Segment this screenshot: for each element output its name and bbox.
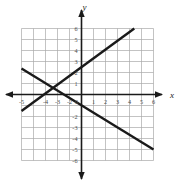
x-axis-right-arrow [155, 91, 163, 97]
xtick-label: -2 [67, 98, 72, 105]
ytick-label: -4 [72, 135, 77, 142]
graph-canvas: -5 -4 -3 -2 1 2 3 4 5 6 6 5 4 3 2 1 -2 -… [0, 0, 186, 187]
data-line-descending [22, 69, 154, 150]
ytick-label: -2 [72, 113, 77, 120]
xtick-label: 1 [92, 98, 95, 105]
coordinate-plane-graph: -5 -4 -3 -2 1 2 3 4 5 6 6 5 4 3 2 1 -2 -… [0, 0, 186, 187]
xtick-label: 2 [104, 98, 107, 105]
xtick-label: 3 [116, 98, 119, 105]
xtick-label: -3 [55, 98, 60, 105]
y-axis-bottom-arrow [78, 172, 84, 180]
xtick-label: 6 [152, 98, 155, 105]
xtick-label: -4 [43, 98, 48, 105]
x-axis-left-arrow [5, 91, 13, 97]
ytick-label: 1 [74, 80, 77, 87]
ytick-label: 4 [74, 47, 77, 54]
ytick-label: -3 [72, 124, 77, 131]
xtick-label: 5 [140, 98, 143, 105]
xtick-label: 4 [128, 98, 131, 105]
ytick-label: -6 [72, 157, 77, 164]
origin-label: 0 [75, 98, 78, 105]
x-axis-label: x [169, 90, 174, 100]
ytick-label: -5 [72, 146, 77, 153]
y-axis-label: y [82, 2, 87, 12]
ytick-label: 5 [74, 36, 77, 43]
ytick-label: 2 [74, 69, 77, 76]
ytick-label: 3 [74, 58, 77, 65]
xtick-label: -5 [19, 98, 24, 105]
ytick-label: 6 [74, 25, 77, 32]
